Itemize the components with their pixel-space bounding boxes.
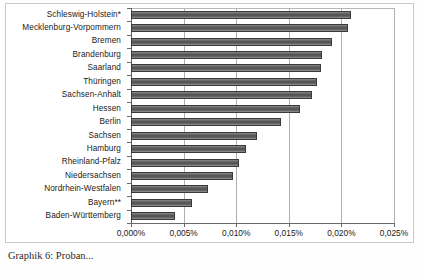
x-tick-label: 0,025% xyxy=(380,229,408,237)
bar xyxy=(131,212,175,220)
bar-row xyxy=(131,156,394,169)
category-label: Niedersachsen xyxy=(0,169,126,182)
bar-row xyxy=(131,21,394,34)
bar xyxy=(131,38,332,46)
bar xyxy=(131,185,208,193)
bar-row xyxy=(131,102,394,115)
category-label: Mecklenburg-Vorpommern xyxy=(0,21,126,34)
bar-series xyxy=(131,8,394,223)
category-label: Sachsen-Anhalt xyxy=(0,89,126,102)
bar-row xyxy=(131,210,394,223)
bar xyxy=(131,24,348,32)
figure-caption: Graphik 6: Proban... xyxy=(8,250,413,261)
x-axis-line xyxy=(131,223,394,224)
bar-row xyxy=(131,89,394,102)
bar xyxy=(131,64,321,72)
x-tick-label: 0,000% xyxy=(117,229,145,237)
category-axis-labels: Schleswig-Holstein*Mecklenburg-Vorpommer… xyxy=(0,8,126,223)
bar xyxy=(131,118,281,126)
chart-page: Schleswig-Holstein*Mecklenburg-Vorpommer… xyxy=(0,0,421,275)
x-tick-3 xyxy=(289,223,290,227)
category-label: Sachsen xyxy=(0,129,126,142)
category-label: Bayern** xyxy=(0,196,126,209)
bar-row xyxy=(131,196,394,209)
category-label: Bremen xyxy=(0,35,126,48)
bar-row xyxy=(131,48,394,61)
x-tick-label: 0,020% xyxy=(327,229,355,237)
category-label: Schleswig-Holstein* xyxy=(0,8,126,21)
bar xyxy=(131,105,300,113)
bar xyxy=(131,172,233,180)
x-tick-label: 0,010% xyxy=(222,229,250,237)
category-label: Berlin xyxy=(0,116,126,129)
bar xyxy=(131,132,257,140)
bar xyxy=(131,199,192,207)
x-tick-4 xyxy=(341,223,342,227)
x-tick-2 xyxy=(236,223,237,227)
bar-row xyxy=(131,75,394,88)
bar-row xyxy=(131,35,394,48)
bar-row xyxy=(131,183,394,196)
bar xyxy=(131,145,246,153)
gridline-5 xyxy=(394,8,395,223)
category-label: Baden-Württemberg xyxy=(0,210,126,223)
bar xyxy=(131,11,351,19)
bar-row xyxy=(131,169,394,182)
bar xyxy=(131,78,317,86)
x-tick-5 xyxy=(394,223,395,227)
x-tick-1 xyxy=(184,223,185,227)
bar-row xyxy=(131,62,394,75)
category-label: Rheinland-Pfalz xyxy=(0,156,126,169)
bar xyxy=(131,51,322,59)
x-tick-0 xyxy=(131,223,132,227)
bar-row xyxy=(131,116,394,129)
category-label: Hamburg xyxy=(0,142,126,155)
category-label: Nordrhein-Westfalen xyxy=(0,183,126,196)
category-label: Brandenburg xyxy=(0,48,126,61)
category-label: Saarland xyxy=(0,62,126,75)
bar xyxy=(131,159,239,167)
bar xyxy=(131,91,312,99)
bar-row xyxy=(131,142,394,155)
category-label: Hessen xyxy=(0,102,126,115)
x-tick-label: 0,015% xyxy=(275,229,303,237)
category-label: Thüringen xyxy=(0,75,126,88)
bar-row xyxy=(131,129,394,142)
bar-row xyxy=(131,8,394,21)
x-tick-label: 0,005% xyxy=(169,229,197,237)
